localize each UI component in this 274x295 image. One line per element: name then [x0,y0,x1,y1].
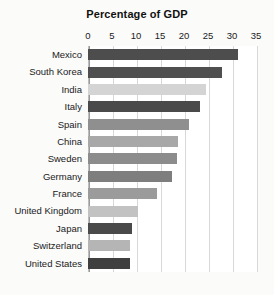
bar-row: United States [0,255,274,272]
category-label: United States [0,255,82,272]
category-label: Japan [0,220,82,237]
x-tick-label: 35 [251,30,262,41]
bar-row: Sweden [0,150,274,167]
bar-row: Japan [0,220,274,237]
bar-row: South Korea [0,63,274,80]
category-label: Mexico [0,46,82,63]
category-label: Germany [0,168,82,185]
x-tick-label: 5 [109,30,114,41]
bar [88,223,132,234]
category-label: India [0,81,82,98]
bar-row: Germany [0,168,274,185]
bar [88,153,177,164]
bar [88,240,130,251]
bar [88,67,222,78]
bar-row: China [0,133,274,150]
category-label: United Kingdom [0,202,82,219]
bar [88,136,178,147]
category-label: South Korea [0,63,82,80]
chart-figure: Percentage of GDP 05101520253035 MexicoS… [0,0,274,295]
category-label: France [0,185,82,202]
category-label: Sweden [0,150,82,167]
bar-row: France [0,185,274,202]
category-label: Italy [0,98,82,115]
x-tick-label: 30 [227,30,238,41]
bar [88,258,130,269]
x-tick-label: 15 [155,30,166,41]
bar [88,84,206,95]
x-tick-label: 20 [179,30,190,41]
bar-row: Switzerland [0,237,274,254]
chart-title: Percentage of GDP [0,8,274,20]
bar [88,206,138,217]
category-label: Spain [0,116,82,133]
bar [88,101,200,112]
x-tick-label: 0 [85,30,90,41]
bar [88,49,238,60]
figure-caption [0,278,274,295]
x-tick-label: 10 [131,30,142,41]
bar [88,171,172,182]
bar-row: Italy [0,98,274,115]
bar-row: India [0,81,274,98]
category-label: China [0,133,82,150]
category-label: Switzerland [0,237,82,254]
bar-row: United Kingdom [0,202,274,219]
x-tick-label: 25 [203,30,214,41]
bar [88,119,189,130]
bar-row: Spain [0,116,274,133]
bar-row: Mexico [0,46,274,63]
bar [88,188,157,199]
